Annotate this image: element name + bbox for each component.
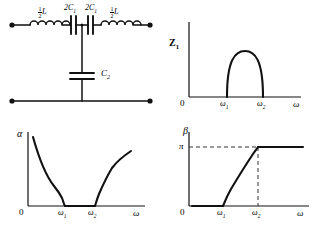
impedance-origin-label: 0 bbox=[180, 99, 185, 108]
junction-dot-series-node bbox=[81, 24, 84, 27]
attenuation-xtick-omega2-subscript: 2 bbox=[94, 213, 97, 219]
impedance-curve bbox=[227, 51, 263, 97]
phase-y-axis-label: β bbox=[183, 126, 188, 136]
phase-curve-passband-rise bbox=[223, 147, 258, 206]
cap-series-left-label: 2C1 bbox=[64, 4, 76, 14]
impedance-xtick-omega2-subscript: 2 bbox=[263, 104, 266, 110]
attenuation-xtick-omega1-subscript: 1 bbox=[64, 213, 67, 219]
attenuation-y-axis-label: α bbox=[17, 129, 22, 139]
attenuation-x-axis-label: ω bbox=[133, 209, 139, 218]
phase-xtick-omega1: ω1 bbox=[217, 209, 225, 219]
inductor-left-label: 1 2 L bbox=[38, 6, 46, 19]
attenuation-chart-panel: α 0 ω1 ω2 ω bbox=[0, 114, 161, 229]
inductor-right-fraction: 1 2 bbox=[110, 6, 114, 19]
impedance-xtick-omega1-subscript: 1 bbox=[226, 104, 229, 110]
inductor-left-symbol: L bbox=[42, 7, 46, 16]
inductor-right-label: 1 2 L bbox=[110, 6, 118, 19]
impedance-xtick-omega2: ω2 bbox=[257, 100, 265, 110]
terminal-dot-top-left bbox=[9, 22, 14, 27]
phase-xtick-omega1-subscript: 1 bbox=[223, 213, 226, 219]
phase-origin-label: 0 bbox=[180, 208, 185, 217]
phase-xtick-omega2: ω2 bbox=[252, 209, 260, 219]
impedance-chart-panel: Z1 0 ω1 ω2 ω bbox=[161, 0, 322, 115]
phase-xtick-omega2-subscript: 2 bbox=[258, 213, 261, 219]
attenuation-curve-lower-branch bbox=[33, 137, 65, 206]
attenuation-origin-label: 0 bbox=[19, 208, 24, 217]
terminal-dot-bottom-right bbox=[147, 98, 152, 103]
phase-x-axis-label: ω bbox=[297, 209, 303, 218]
cap-series-left-value: 2C bbox=[64, 3, 73, 12]
phase-ytick-pi: π bbox=[179, 142, 184, 151]
impedance-x-axis-label: ω bbox=[293, 100, 299, 109]
impedance-y-axis-subscript: 1 bbox=[176, 43, 179, 50]
impedance-chart-svg bbox=[161, 0, 322, 115]
cap-series-right-subscript: 1 bbox=[94, 8, 97, 14]
inductor-right-numerator: 1 bbox=[110, 6, 114, 13]
cap-series-right-value: 2C bbox=[85, 3, 94, 12]
cap-series-left-subscript: 1 bbox=[73, 8, 76, 14]
inductor-left-numerator: 1 bbox=[38, 6, 42, 13]
attenuation-xtick-omega2: ω2 bbox=[88, 209, 96, 219]
cap-shunt-label: C2 bbox=[101, 69, 110, 80]
circuit-diagram-panel: 1 2 L 2C1 2C1 1 2 L C2 bbox=[0, 0, 161, 115]
cap-series-right-label: 2C1 bbox=[85, 4, 97, 14]
cap-shunt-subscript: 2 bbox=[107, 74, 110, 80]
impedance-y-axis-symbol: Z bbox=[169, 37, 176, 48]
terminal-dot-bottom-left bbox=[9, 98, 14, 103]
inductor-right-symbol: L bbox=[114, 7, 118, 16]
figure-root: 1 2 L 2C1 2C1 1 2 L C2 bbox=[0, 0, 322, 229]
circuit-schematic bbox=[0, 0, 161, 115]
attenuation-curve-upper-branch bbox=[95, 151, 131, 206]
inductor-left-fraction: 1 2 bbox=[38, 6, 42, 19]
inductor-right-denominator: 2 bbox=[110, 13, 114, 19]
phase-chart-panel: β π 0 ω1 ω2 ω bbox=[161, 114, 322, 229]
impedance-y-axis-label: Z1 bbox=[169, 38, 179, 51]
attenuation-xtick-omega1: ω1 bbox=[58, 209, 66, 219]
terminal-dot-top-right bbox=[147, 22, 152, 27]
inductor-left-denominator: 2 bbox=[38, 13, 42, 19]
impedance-xtick-omega1: ω1 bbox=[220, 100, 228, 110]
